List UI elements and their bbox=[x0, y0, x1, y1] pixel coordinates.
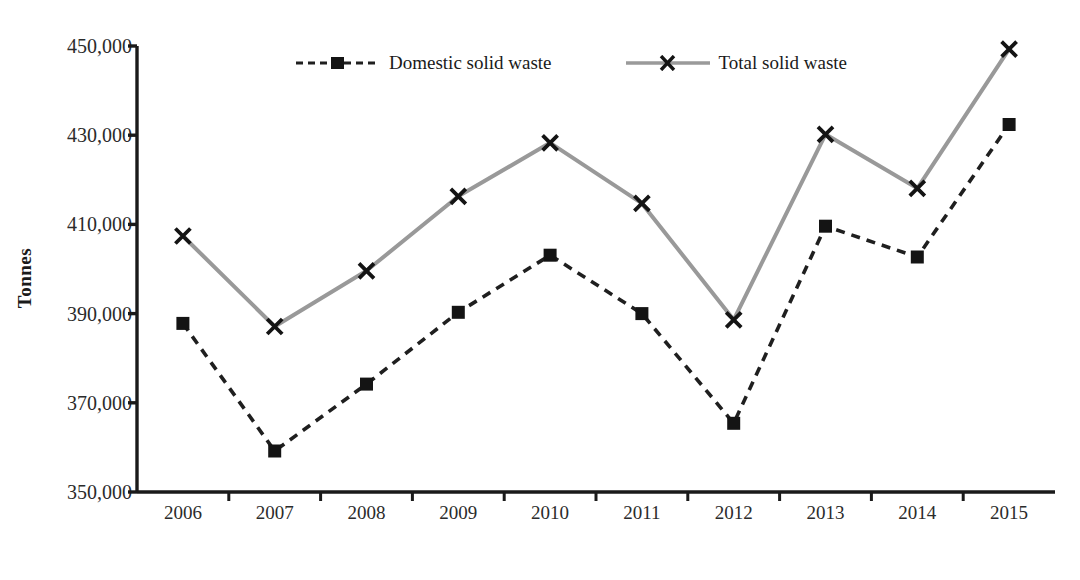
data-point-marker bbox=[1002, 42, 1017, 57]
data-point-marker bbox=[360, 378, 373, 391]
data-point-marker bbox=[818, 127, 833, 142]
data-point-marker bbox=[726, 312, 741, 327]
data-point-marker bbox=[268, 445, 281, 458]
solid-waste-line-chart: Tonnes 350,000370,000390,000410,000430,0… bbox=[0, 0, 1080, 580]
data-point-marker bbox=[544, 249, 557, 262]
data-point-marker bbox=[175, 229, 190, 244]
data-point-marker bbox=[543, 135, 558, 150]
data-point-marker bbox=[819, 220, 832, 233]
data-point-marker bbox=[451, 189, 466, 204]
data-point-marker bbox=[911, 251, 924, 264]
data-point-marker bbox=[634, 196, 649, 211]
data-point-marker bbox=[359, 263, 374, 278]
data-point-marker bbox=[267, 319, 282, 334]
data-point-marker bbox=[910, 181, 925, 196]
data-point-marker bbox=[452, 306, 465, 319]
plot-area bbox=[0, 0, 1080, 580]
data-point-marker bbox=[176, 317, 189, 330]
data-point-marker bbox=[635, 307, 648, 320]
data-point-marker bbox=[727, 417, 740, 430]
data-point-marker bbox=[1003, 118, 1016, 131]
